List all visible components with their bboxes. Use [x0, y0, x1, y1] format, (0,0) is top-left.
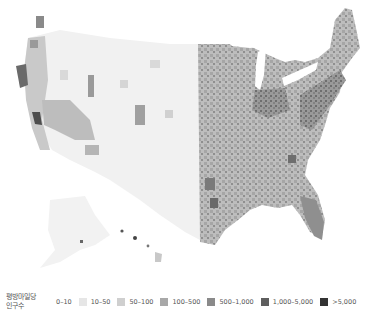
sf-bay-area	[16, 64, 28, 88]
legend-item: 10–50	[79, 298, 111, 306]
legend-swatch	[44, 298, 52, 306]
legend-item: >5,000	[320, 298, 356, 306]
legend-label: 500–1,000	[219, 298, 253, 306]
hawaii-maui	[147, 245, 150, 248]
legend-label: 100–500	[172, 298, 200, 306]
legend-item: 0–10	[44, 298, 72, 306]
hawaii-big-island	[155, 252, 162, 262]
legend-item: 1,000–5,000	[261, 298, 313, 306]
texas-dense-1	[205, 178, 215, 190]
legend-title-line2: 인구수	[6, 302, 36, 311]
legend-item: 100–500	[160, 298, 200, 306]
legend: 평방마일당 인구수 0–10 10–50 50–100 100–500 500–…	[0, 293, 389, 315]
legend-label: 0–10	[56, 298, 72, 306]
legend-label: 1,000–5,000	[273, 298, 313, 306]
legend-swatch	[261, 298, 269, 306]
denver-area	[135, 105, 145, 125]
west-county-1	[60, 70, 68, 80]
phoenix-area	[85, 145, 99, 155]
legend-item: 500–1,000	[207, 298, 253, 306]
legend-label: >5,000	[332, 298, 356, 306]
legend-title-line1: 평방마일당	[6, 293, 36, 302]
legend-swatch	[207, 298, 215, 306]
alaska	[40, 196, 110, 268]
legend-swatch	[117, 298, 125, 306]
choropleth-map	[0, 0, 389, 285]
legend-item: 50–100	[117, 298, 153, 306]
legend-items: 0–10 10–50 50–100 100–500 500–1,000 1,00…	[44, 298, 363, 306]
anchorage	[80, 240, 83, 243]
legend-swatch	[79, 298, 87, 306]
seattle-area	[36, 16, 44, 28]
legend-label: 50–100	[129, 298, 153, 306]
legend-title: 평방마일당 인구수	[6, 293, 36, 311]
west-county-4	[165, 110, 173, 118]
texas-dense-2	[210, 198, 218, 208]
legend-swatch	[160, 298, 168, 306]
west-county-3	[150, 60, 160, 68]
atlanta-dense	[288, 155, 296, 163]
legend-swatch	[320, 298, 328, 306]
portland-area	[30, 40, 38, 48]
hawaii-oahu	[133, 236, 137, 240]
us-east-region	[198, 8, 360, 245]
west-county-2	[120, 80, 128, 88]
legend-label: 10–50	[91, 298, 111, 306]
hawaii-kauai	[120, 229, 123, 232]
salt-lake-area	[88, 75, 94, 97]
